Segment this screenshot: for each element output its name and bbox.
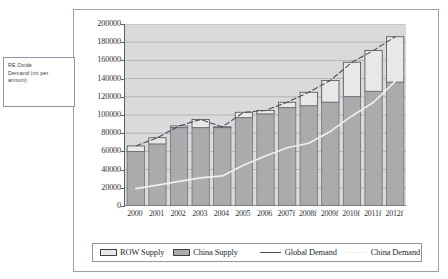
y-tick-label: 100000 <box>74 111 121 119</box>
re-oxide-demand-callout: RE Oxide Demand (mt per annum) <box>3 57 75 107</box>
bar-row-supply <box>300 92 317 106</box>
bar-china-supply <box>257 114 274 206</box>
x-tick-label: 2001 <box>146 209 168 218</box>
y-tick-label: 80000 <box>74 129 121 137</box>
y-tick-label: 160000 <box>74 56 121 64</box>
x-tick-label: 2004 <box>210 209 232 218</box>
legend-swatch-row-supply-icon <box>100 249 117 256</box>
plot-area <box>124 24 406 206</box>
x-axis: 20002001200220032004200520062007f2008f20… <box>124 209 405 225</box>
y-tick-label: 180000 <box>74 38 121 46</box>
bar-china-supply <box>127 151 144 206</box>
y-tick-label: 60000 <box>74 147 121 155</box>
x-tick-label: 2002 <box>167 209 189 218</box>
bar-row-supply <box>235 112 252 117</box>
x-tick-label: 2012f <box>383 209 405 218</box>
y-tick-label: 140000 <box>74 75 121 83</box>
bar-row-supply <box>365 50 382 91</box>
legend-swatch-china-supply-icon <box>173 249 190 256</box>
bar-china-supply <box>149 144 166 206</box>
legend-item[interactable]: ROW Supply <box>100 248 164 257</box>
legend-item[interactable]: China Demand <box>346 248 420 257</box>
y-tick-label: 40000 <box>74 166 121 174</box>
y-tick-label: 0 <box>74 202 121 210</box>
y-tick-label: 20000 <box>74 184 121 192</box>
bar-row-supply <box>127 146 144 151</box>
bar-china-supply <box>365 91 382 206</box>
legend-line-china-demand-icon <box>346 252 367 253</box>
legend-label: Global Demand <box>285 248 337 257</box>
x-tick-label: 2009f <box>319 209 341 218</box>
x-tick-label: 2008f <box>297 209 319 218</box>
bar-row-supply <box>149 138 166 144</box>
y-tick-label: 120000 <box>74 93 121 101</box>
chart-legend: ROW SupplyChina SupplyGlobal DemandChina… <box>92 243 422 262</box>
bar-china-supply <box>170 128 187 206</box>
y-tick-label: 200000 <box>74 20 121 28</box>
legend-label: China Demand <box>371 248 420 257</box>
bar-china-supply <box>343 97 360 206</box>
y-tick-mark <box>121 206 125 207</box>
x-tick-label: 2011f <box>362 209 384 218</box>
chart-canvas <box>125 24 406 206</box>
x-tick-label: 2005 <box>232 209 254 218</box>
x-tick-label: 2006 <box>254 209 276 218</box>
x-tick-label: 2000 <box>124 209 146 218</box>
bar-china-supply <box>214 128 231 206</box>
legend-line-global-demand-icon <box>260 252 281 253</box>
x-tick-label: 2003 <box>189 209 211 218</box>
y-axis: 2000001800001600001400001200001000008000… <box>74 24 121 206</box>
bar-china-supply <box>387 82 404 206</box>
x-tick-label: 2007f <box>275 209 297 218</box>
bar-row-supply <box>387 37 404 83</box>
bar-china-supply <box>192 128 209 206</box>
x-tick-label: 2010f <box>340 209 362 218</box>
legend-label: ROW Supply <box>120 248 164 257</box>
chart-screenshot: RE Oxide Demand (mt per annum) 200000180… <box>0 0 448 279</box>
bar-china-supply <box>300 106 317 206</box>
bar-china-supply <box>278 108 295 206</box>
legend-item[interactable]: China Supply <box>173 248 238 257</box>
legend-item[interactable]: Global Demand <box>260 248 337 257</box>
legend-label: China Supply <box>193 248 238 257</box>
bar-china-supply <box>322 102 339 206</box>
plot-wrapper: 2000001800001600001400001200001000008000… <box>74 10 440 273</box>
re-oxide-demand-label: RE Oxide Demand (mt per annum) <box>8 62 71 85</box>
chart-frame: 2000001800001600001400001200001000008000… <box>73 9 439 272</box>
